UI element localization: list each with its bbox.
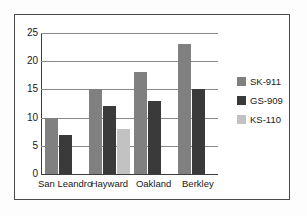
- bar: [89, 89, 102, 174]
- bar-group: [178, 33, 218, 174]
- bar-group: [134, 33, 174, 174]
- bar-group: [45, 33, 85, 174]
- chart-legend: SK-911GS-909KS-110: [237, 74, 287, 131]
- legend-label: SK-911: [250, 77, 281, 87]
- y-tick-label-5: 5: [18, 141, 38, 151]
- bar: [103, 106, 116, 174]
- y-tick-label-15: 15: [18, 84, 38, 94]
- plot-area: [41, 33, 218, 174]
- legend-swatch-icon: [237, 96, 246, 105]
- x-axis-tick-labels: San LeandroHaywardOaklandBerkley: [41, 178, 226, 192]
- bar: [148, 101, 161, 174]
- legend-label: KS-110: [250, 115, 281, 125]
- gridline-0: [41, 174, 218, 175]
- legend-item: KS-110: [237, 112, 287, 127]
- bar: [178, 44, 191, 174]
- bar: [59, 135, 72, 174]
- legend-item: GS-909: [237, 93, 287, 108]
- legend-item: SK-911: [237, 74, 287, 89]
- legend-label: GS-909: [250, 96, 283, 106]
- bar: [134, 72, 147, 174]
- bar-chart-figure: 0510152025 San LeandroHaywardOaklandBerk…: [0, 0, 307, 216]
- bar: [117, 129, 130, 174]
- bar-group: [89, 33, 129, 174]
- y-tick-label-10: 10: [18, 113, 38, 123]
- bar: [192, 89, 205, 174]
- y-tick-label-25: 25: [18, 28, 38, 38]
- y-tick-label-20: 20: [18, 56, 38, 66]
- bar: [45, 118, 58, 174]
- x-tick-label: Berkley: [166, 178, 230, 190]
- legend-swatch-icon: [237, 77, 246, 86]
- legend-swatch-icon: [237, 115, 246, 124]
